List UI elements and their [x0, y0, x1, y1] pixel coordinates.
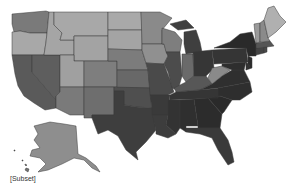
state-HI[interactable]: [14, 150, 29, 172]
state-AR[interactable]: [150, 95, 170, 115]
state-PA[interactable]: [212, 48, 248, 64]
state-AZ[interactable]: [56, 87, 84, 115]
state-KS[interactable]: [117, 70, 150, 88]
state-FL[interactable]: [186, 128, 234, 165]
state-IA[interactable]: [142, 44, 168, 64]
state-OR[interactable]: [12, 31, 47, 55]
state-ND[interactable]: [108, 12, 142, 30]
state-CO[interactable]: [84, 61, 117, 87]
state-WY[interactable]: [74, 36, 108, 61]
state-ME[interactable]: [264, 6, 286, 38]
state-SD[interactable]: [108, 30, 142, 50]
state-WI[interactable]: [162, 28, 182, 52]
state-WA[interactable]: [12, 11, 49, 33]
us-choropleth-map: [0, 0, 288, 191]
state-RI[interactable]: [264, 47, 267, 53]
state-NM[interactable]: [84, 87, 114, 118]
subset-caption: [Subset]: [10, 175, 36, 182]
state-CT[interactable]: [256, 47, 264, 55]
state-AK[interactable]: [30, 122, 100, 172]
